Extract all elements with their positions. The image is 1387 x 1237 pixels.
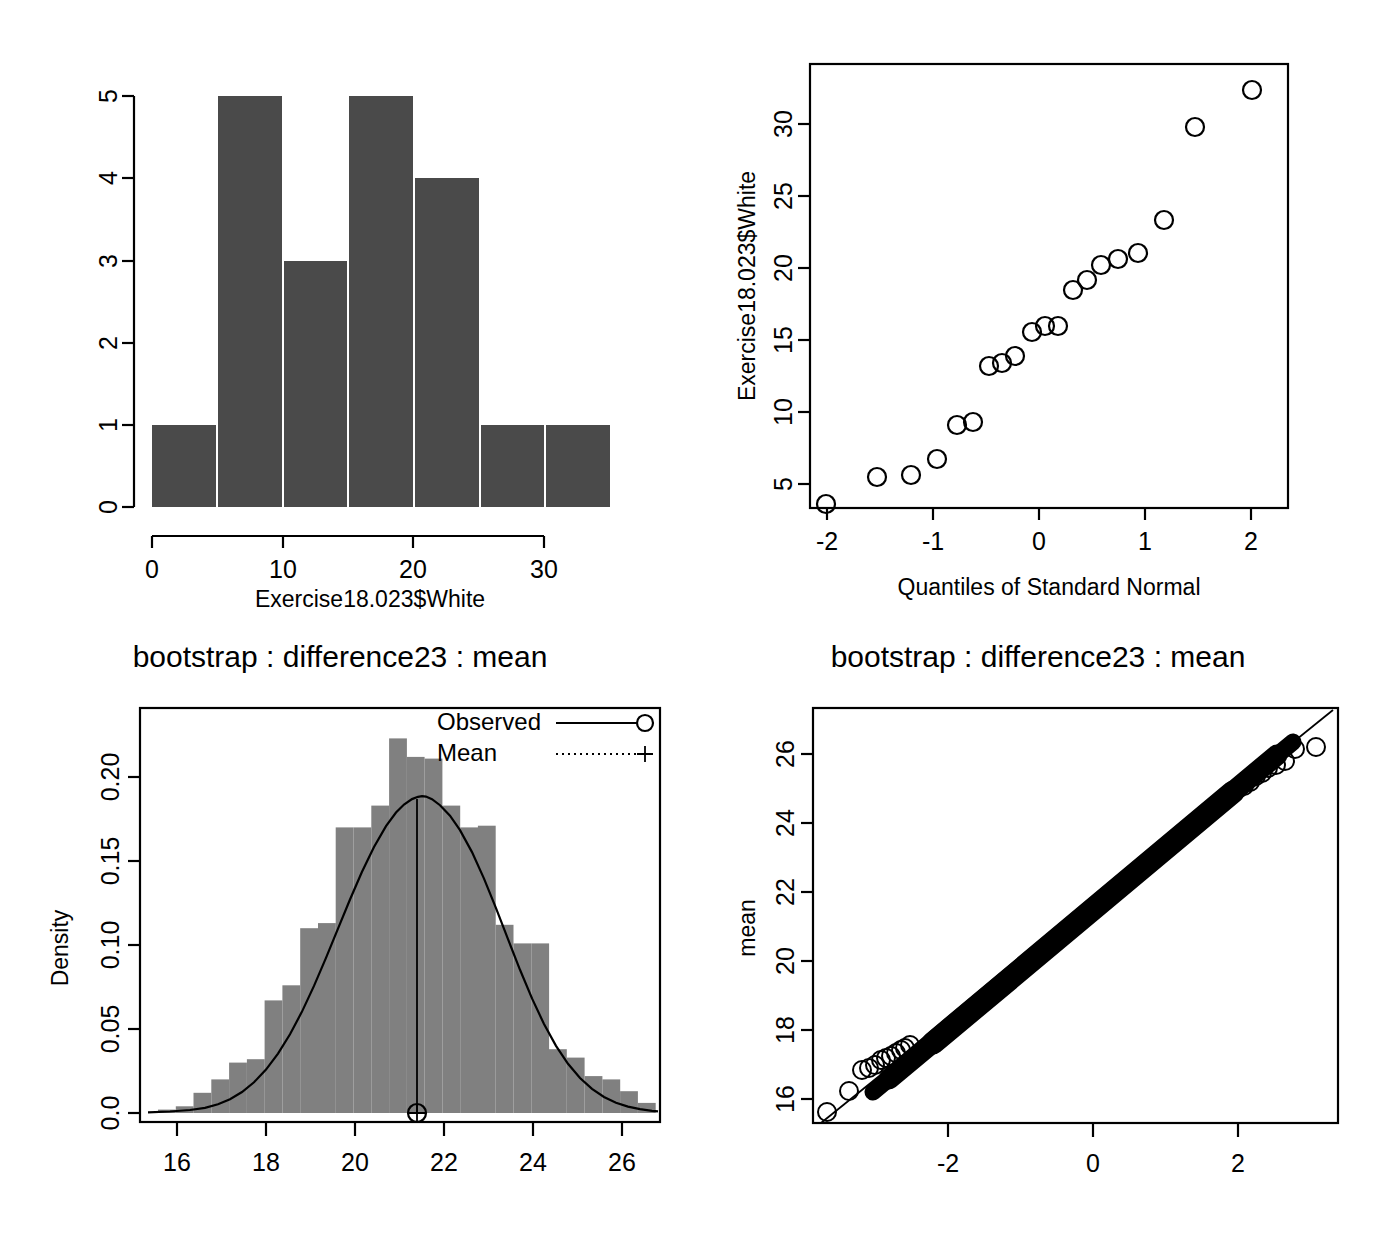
- qq-ytick-10: 10: [769, 398, 797, 426]
- density-xtick-18: 18: [252, 1148, 280, 1176]
- bqq-point: [1307, 738, 1325, 756]
- density-bar: [300, 928, 318, 1113]
- bqq-xtick--2: -2: [937, 1149, 959, 1177]
- qq-xtick--2: -2: [816, 527, 838, 555]
- qq-x-axis-title: Quantiles of Standard Normal: [898, 574, 1201, 600]
- bqq-ytick-20: 20: [771, 947, 799, 975]
- ytick-2: 2: [94, 336, 122, 350]
- qq-point: [980, 357, 998, 375]
- qq-point: [1049, 317, 1067, 335]
- observed-marker: [408, 1104, 426, 1122]
- density-bar: [389, 738, 407, 1113]
- qq-xtick-2: 2: [1244, 527, 1258, 555]
- bqq-ytick-18: 18: [771, 1016, 799, 1044]
- density-xtick-24: 24: [519, 1148, 547, 1176]
- histogram-bar: [218, 96, 282, 507]
- sample-qq-svg: 5 10 15 20 25 30 Exercise18.023$White: [693, 0, 1387, 618]
- qq-point: [1078, 271, 1096, 289]
- qq-point: [928, 450, 946, 468]
- qq-point: [1243, 81, 1261, 99]
- ytick-3: 3: [94, 254, 122, 268]
- density-x-axis: 16 18 20 22 24 26: [163, 1122, 636, 1176]
- bqq-ytick-26: 26: [771, 740, 799, 768]
- qq-point: [1186, 118, 1204, 136]
- bqq-ytick-24: 24: [771, 809, 799, 837]
- bqq-xtick-0: 0: [1086, 1149, 1100, 1177]
- density-ytick-0.0: 0.0: [96, 1096, 124, 1131]
- legend-observed-circle-icon: [637, 715, 653, 731]
- density-bars: [158, 738, 656, 1113]
- density-xtick-22: 22: [430, 1148, 458, 1176]
- density-bar: [514, 943, 532, 1113]
- histogram-bar: [415, 178, 479, 507]
- density-bar: [371, 806, 389, 1113]
- density-bar: [496, 925, 514, 1113]
- sample-histogram-svg: 0 1 2 3 4 5 0: [0, 0, 693, 618]
- qq-ytick-25: 25: [769, 182, 797, 210]
- density-bar: [460, 827, 478, 1113]
- density-bar: [282, 985, 300, 1113]
- density-bar: [211, 1079, 229, 1113]
- legend-mean-plus-icon: [637, 746, 653, 762]
- qq-data-points: [817, 81, 1261, 513]
- density-xtick-26: 26: [608, 1148, 636, 1176]
- density-bar: [265, 1000, 283, 1113]
- xtick-10: 10: [269, 555, 297, 583]
- bootstrap-density-title: bootstrap : difference23 : mean: [133, 640, 548, 673]
- qq-plot-frame: [810, 64, 1288, 508]
- legend-label-observed: Observed: [437, 708, 541, 735]
- histogram-x-axis: 0 10 20 30: [145, 536, 558, 583]
- bootstrap-qq-title: bootstrap : difference23 : mean: [831, 640, 1246, 673]
- density-bar: [229, 1063, 247, 1113]
- qq-point: [1129, 244, 1147, 262]
- qq-point: [948, 416, 966, 434]
- density-bar: [442, 806, 460, 1113]
- bqq-point: [840, 1082, 858, 1100]
- histogram-bars: [152, 96, 610, 507]
- histogram-x-axis-title: Exercise18.023$White: [255, 586, 485, 612]
- qq-x-axis: -2 -1 0 1 2: [816, 508, 1258, 555]
- density-y-axis-title: Density: [47, 909, 73, 986]
- histogram-bar: [284, 261, 347, 507]
- bootstrap-qq-svg: bootstrap : difference23 : mean 16 18 20…: [693, 618, 1387, 1237]
- qq-point: [1092, 256, 1110, 274]
- bootstrap-density-svg: bootstrap : difference23 : mean 0.0 0.05…: [0, 618, 693, 1237]
- qq-y-axis: 5 10 15 20 25 30: [769, 110, 810, 491]
- bootstrap-qq-y-axis: 16 18 20 22 24 26: [771, 740, 813, 1113]
- qq-y-axis-title: Exercise18.023$White: [734, 171, 760, 401]
- xtick-20: 20: [399, 555, 427, 583]
- qq-point: [868, 468, 886, 486]
- histogram-bar: [349, 96, 413, 507]
- qq-ytick-20: 20: [769, 254, 797, 282]
- qq-point: [1155, 211, 1173, 229]
- bqq-ytick-22: 22: [771, 878, 799, 906]
- density-legend: Observed Mean: [437, 708, 653, 766]
- legend-label-mean: Mean: [437, 739, 497, 766]
- bootstrap-qq-y-axis-title: mean: [734, 899, 760, 957]
- qq-ytick-5: 5: [769, 477, 797, 491]
- density-ytick-0.15: 0.15: [96, 837, 124, 886]
- density-ytick-0.10: 0.10: [96, 921, 124, 970]
- histogram-y-axis: 0 1 2 3 4 5: [94, 89, 134, 514]
- density-y-axis: 0.0 0.05 0.10 0.15 0.20: [96, 753, 140, 1131]
- qq-point: [902, 466, 920, 484]
- ytick-5: 5: [94, 89, 122, 103]
- qq-xtick-0: 0: [1032, 527, 1046, 555]
- density-bar: [425, 759, 443, 1113]
- xtick-0: 0: [145, 555, 159, 583]
- panel-bootstrap-density: bootstrap : difference23 : mean 0.0 0.05…: [0, 618, 693, 1237]
- qq-xtick-1: 1: [1138, 527, 1152, 555]
- density-ytick-0.20: 0.20: [96, 753, 124, 802]
- qq-ytick-30: 30: [769, 110, 797, 138]
- bqq-ytick-16: 16: [771, 1085, 799, 1113]
- ytick-1: 1: [94, 418, 122, 432]
- density-ytick-0.05: 0.05: [96, 1005, 124, 1054]
- density-bar: [407, 757, 425, 1113]
- histogram-bar: [152, 425, 216, 507]
- density-bar: [318, 923, 336, 1113]
- xtick-30: 30: [530, 555, 558, 583]
- ytick-0: 0: [94, 500, 122, 514]
- qq-point: [964, 413, 982, 431]
- density-xtick-16: 16: [163, 1148, 191, 1176]
- figure-canvas: 0 1 2 3 4 5 0: [0, 0, 1387, 1237]
